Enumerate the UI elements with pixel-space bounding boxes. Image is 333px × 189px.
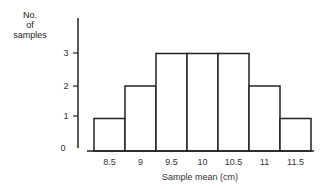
y-ticks-group: 0123	[60, 48, 78, 153]
y-tick-label: 0	[60, 143, 65, 153]
x-tick-label: 8.5	[103, 157, 116, 167]
y-tick-label: 1	[63, 111, 68, 121]
histogram-bar	[249, 86, 280, 151]
x-tick-label: 10.5	[225, 157, 243, 167]
histogram-bar	[94, 119, 125, 152]
bars-group	[94, 54, 311, 152]
histogram-bar	[280, 119, 311, 152]
histogram-chart: 0123 8.599.51010.51111.5 Sample mean (cm…	[0, 0, 333, 189]
x-tick-label: 9.5	[165, 157, 178, 167]
histogram-bar	[156, 54, 187, 152]
x-tick-label: 9	[138, 157, 143, 167]
histogram-bar	[187, 54, 218, 152]
y-tick-label: 3	[63, 48, 68, 58]
y-tick-label: 2	[63, 81, 68, 91]
x-axis-title: Sample mean (cm)	[162, 172, 238, 182]
x-tick-label: 11.5	[287, 157, 304, 167]
x-tick-label: 11	[260, 157, 269, 167]
x-tick-labels-group: 8.599.51010.51111.5	[103, 157, 304, 167]
x-tick-label: 10	[197, 157, 207, 167]
histogram-bar	[218, 54, 249, 152]
histogram-bar	[125, 86, 156, 151]
